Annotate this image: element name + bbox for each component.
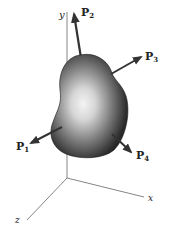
force-label-p4: P4: [136, 149, 149, 163]
z-axis-label: z: [14, 215, 20, 225]
force-label-p3: P3: [145, 50, 158, 64]
force-label-p1: P1: [16, 140, 29, 154]
diagram-canvas: y x z P2 P3 P1 P4: [0, 0, 169, 229]
force-label-p2: P2: [81, 6, 94, 20]
z-axis: [27, 178, 67, 220]
y-axis-label: y: [58, 9, 65, 20]
x-axis-label: x: [148, 193, 153, 203]
force-arrow-p2: [74, 14, 81, 58]
force-arrow-p3: [111, 57, 141, 74]
x-axis: [67, 178, 144, 197]
